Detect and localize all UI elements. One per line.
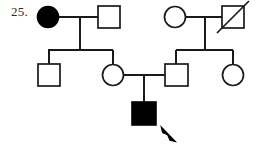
individual-ii4-unaffected-female (223, 65, 244, 86)
individual-i3-unaffected-female (165, 7, 186, 28)
annotation-group (161, 127, 175, 142)
individual-iii1-affected-male-proband (132, 102, 156, 125)
individual-ii1-unaffected-male (38, 64, 60, 86)
pedigree-diagram-canvas (0, 0, 258, 148)
pedigree-figure: 25. (0, 0, 258, 148)
individual-i1-affected-female (38, 7, 59, 28)
individual-i2-unaffected-male (98, 6, 120, 28)
individual-symbols-group (38, 1, 250, 125)
connector-lines-group (48, 17, 233, 103)
individual-ii2-unaffected-female (103, 65, 124, 86)
proband-arrow-icon (161, 127, 175, 142)
individual-ii3-unaffected-male (165, 64, 188, 86)
